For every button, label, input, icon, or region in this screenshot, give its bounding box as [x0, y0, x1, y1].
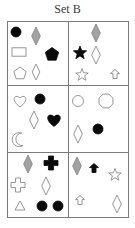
gray-diamond-icon [32, 27, 41, 45]
white-crescent-icon [12, 133, 23, 147]
grid-cell-row1-col2 [73, 24, 119, 80]
grid-cell-row1-col1 [11, 27, 59, 80]
black-arrow-up-icon [90, 164, 99, 173]
grid-cells [11, 24, 121, 213]
white-arrow-up-icon [76, 196, 85, 205]
white-heart-icon [14, 96, 26, 107]
white-cross-icon [11, 178, 25, 192]
black-circle-icon [93, 124, 103, 134]
white-pentagon-icon [14, 67, 26, 79]
black-circle-icon [35, 94, 45, 104]
grid-cell-row2-col1 [12, 94, 60, 147]
white-diamond-icon [92, 46, 101, 64]
black-circle-icon [11, 27, 21, 37]
white-diamond-icon [30, 111, 39, 129]
gray-diamond-icon [73, 157, 82, 175]
grid-cell-row3-col1 [11, 155, 63, 211]
white-diamond-icon [74, 125, 83, 143]
white-diamond-icon [42, 177, 51, 195]
gray-diamond-icon [92, 24, 101, 42]
black-circle-icon [37, 201, 47, 211]
gray-diamond-icon [24, 155, 33, 173]
black-circle-icon [53, 201, 63, 211]
white-diamond-icon [113, 195, 122, 213]
black-cross-icon [44, 156, 58, 170]
black-heart-icon [48, 115, 61, 126]
white-octagon-icon [99, 94, 113, 108]
white-star-icon [109, 169, 121, 181]
white-diamond-icon [32, 64, 40, 80]
black-pentagon-icon [45, 48, 58, 61]
white-circle-icon [73, 96, 84, 107]
white-star-icon [76, 69, 88, 81]
grid-cell-row3-col2 [73, 157, 122, 213]
white-arrow-up-icon [111, 70, 120, 79]
shape-grid [0, 0, 135, 228]
white-rectangle-icon [12, 48, 26, 56]
grid-cell-row2-col2 [73, 94, 113, 143]
black-star-icon [73, 46, 86, 59]
white-triangle-icon [15, 201, 25, 210]
